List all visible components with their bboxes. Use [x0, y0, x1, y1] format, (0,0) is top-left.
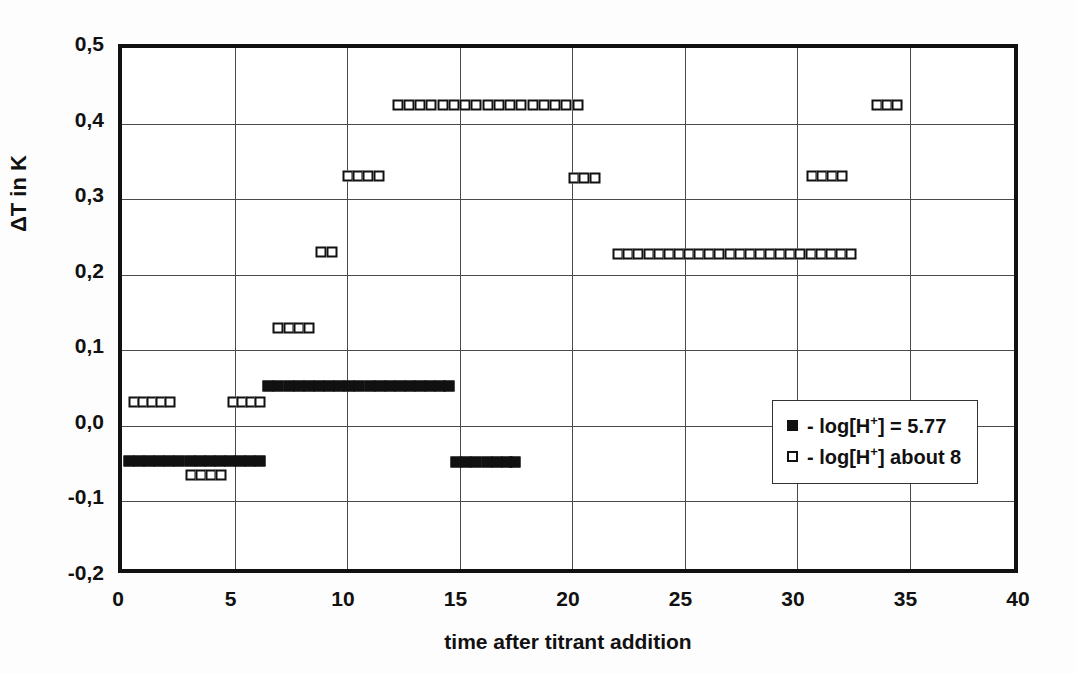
gridline-horizontal	[122, 501, 1014, 502]
y-tick-label: -0,1	[28, 485, 104, 509]
data-point-series-1	[255, 455, 266, 466]
data-point-series-2	[493, 99, 504, 110]
legend-item-series-1: - log[H+] = 5.77	[787, 410, 961, 441]
data-point-series-2	[561, 99, 572, 110]
x-tick-label: 40	[988, 587, 1048, 611]
data-point-series-2	[550, 99, 561, 110]
y-tick-label: 0,1	[28, 334, 104, 358]
y-tick-label: 0,2	[28, 259, 104, 283]
chart-legend: - log[H+] = 5.77 - log[H+] about 8	[772, 400, 978, 484]
x-axis-title: time after titrant addition	[118, 630, 1018, 654]
data-point-series-2	[527, 99, 538, 110]
y-tick-label: 0,0	[28, 410, 104, 434]
gridline-vertical	[685, 48, 686, 569]
data-point-series-2	[505, 99, 516, 110]
gridline-horizontal	[122, 275, 1014, 276]
data-point-series-2	[589, 172, 600, 183]
data-point-series-1	[444, 380, 455, 391]
plot-area	[118, 44, 1018, 573]
data-point-series-2	[373, 171, 384, 182]
x-tick-label: 0	[88, 587, 148, 611]
y-tick-label: 0,5	[28, 32, 104, 56]
gridline-vertical	[910, 48, 911, 569]
data-point-series-2	[538, 99, 549, 110]
x-tick-label: 35	[876, 587, 936, 611]
data-point-series-2	[460, 99, 471, 110]
gridline-horizontal	[122, 350, 1014, 351]
data-point-series-2	[837, 171, 848, 182]
gridline-vertical	[572, 48, 573, 569]
data-point-series-2	[426, 99, 437, 110]
data-point-series-2	[327, 247, 338, 258]
data-point-series-2	[392, 99, 403, 110]
gridline-vertical	[797, 48, 798, 569]
filled-square-icon	[787, 420, 798, 431]
data-point-series-2	[303, 322, 314, 333]
data-point-series-2	[316, 247, 327, 258]
data-point-series-2	[892, 99, 903, 110]
data-point-series-2	[216, 469, 227, 480]
data-point-series-2	[165, 396, 176, 407]
legend-item-series-2: - log[H+] about 8	[787, 441, 961, 472]
gridline-horizontal	[122, 199, 1014, 200]
data-point-series-2	[482, 99, 493, 110]
data-point-series-2	[471, 99, 482, 110]
data-point-series-2	[255, 396, 266, 407]
gridline-vertical	[347, 48, 348, 569]
open-square-icon	[787, 451, 798, 462]
x-tick-label: 15	[426, 587, 486, 611]
legend-label-series-2: - log[H+] about 8	[807, 444, 961, 469]
y-tick-label: 0,4	[28, 108, 104, 132]
x-tick-label: 25	[651, 587, 711, 611]
data-point-series-2	[572, 99, 583, 110]
data-point-series-2	[448, 99, 459, 110]
data-point-series-2	[437, 99, 448, 110]
data-point-series-2	[516, 99, 527, 110]
y-tick-label: 0,3	[28, 183, 104, 207]
y-tick-label: -0,2	[28, 561, 104, 585]
legend-label-series-1: - log[H+] = 5.77	[807, 413, 946, 438]
x-tick-label: 20	[538, 587, 598, 611]
x-tick-label: 10	[313, 587, 373, 611]
gridline-vertical	[235, 48, 236, 569]
gridline-horizontal	[122, 124, 1014, 125]
x-tick-label: 30	[763, 587, 823, 611]
data-point-series-2	[403, 99, 414, 110]
data-point-series-2	[846, 249, 857, 260]
chart-figure: ΔT in K 0,50,40,30,20,10,0-0,1-0,2 05101…	[0, 0, 1076, 674]
data-point-series-1	[509, 457, 520, 468]
data-point-series-2	[415, 99, 426, 110]
gridline-vertical	[460, 48, 461, 569]
x-tick-label: 5	[201, 587, 261, 611]
